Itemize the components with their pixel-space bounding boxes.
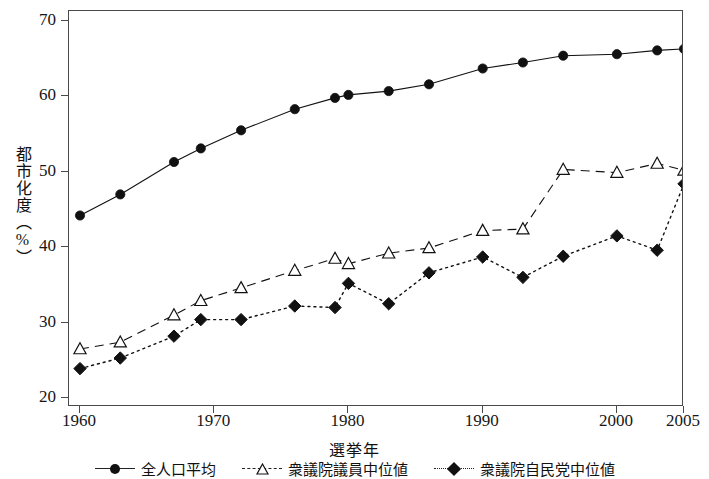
data-point bbox=[195, 313, 207, 325]
data-point bbox=[678, 164, 682, 175]
data-point bbox=[289, 300, 301, 312]
data-point bbox=[679, 44, 682, 53]
data-point bbox=[478, 64, 487, 73]
x-tick-label: 1970 bbox=[196, 412, 230, 429]
data-point bbox=[559, 51, 568, 60]
data-point bbox=[75, 211, 84, 220]
legend-symbol bbox=[242, 463, 282, 475]
data-point bbox=[329, 301, 341, 313]
data-point bbox=[195, 294, 207, 305]
data-point bbox=[329, 252, 341, 263]
y-tick-label: 40 bbox=[22, 237, 56, 254]
series-line-2 bbox=[80, 184, 682, 369]
y-tick-mark bbox=[61, 20, 68, 21]
data-point bbox=[612, 50, 621, 59]
x-tick-label: 1980 bbox=[330, 412, 364, 429]
data-point bbox=[678, 178, 682, 190]
plot-area bbox=[68, 10, 683, 406]
y-tick-label: 50 bbox=[22, 162, 56, 179]
data-point bbox=[476, 251, 488, 263]
x-tick-label: 1990 bbox=[465, 412, 499, 429]
data-point bbox=[517, 271, 529, 283]
data-point bbox=[557, 163, 569, 174]
x-tick-mark bbox=[347, 406, 348, 413]
data-point bbox=[289, 264, 301, 275]
x-tick-label: 1960 bbox=[62, 412, 96, 429]
series-line-0 bbox=[80, 49, 682, 216]
y-tick-label: 60 bbox=[22, 86, 56, 103]
y-tick-mark bbox=[61, 322, 68, 323]
x-tick-mark bbox=[213, 406, 214, 413]
chart-legend: 全人口平均衆議院議員中位値衆議院自民党中位値 bbox=[0, 458, 709, 479]
data-point bbox=[116, 190, 125, 199]
x-tick-label: 2000 bbox=[599, 412, 633, 429]
data-point bbox=[235, 282, 247, 293]
data-point bbox=[196, 144, 205, 153]
data-point bbox=[477, 224, 489, 235]
data-point bbox=[423, 242, 435, 253]
series-canvas bbox=[69, 11, 682, 405]
legend-item: 衆議院議員中位値 bbox=[242, 458, 408, 479]
data-point bbox=[168, 330, 180, 342]
data-point bbox=[237, 126, 246, 135]
data-point bbox=[168, 309, 180, 320]
x-tick-label: 2005 bbox=[666, 412, 700, 429]
data-point bbox=[611, 166, 623, 177]
legend-label: 衆議院議員中位値 bbox=[288, 458, 408, 479]
y-tick-mark bbox=[61, 397, 68, 398]
data-point bbox=[383, 298, 395, 310]
data-point bbox=[653, 46, 662, 55]
x-tick-mark bbox=[616, 406, 617, 413]
data-point bbox=[342, 277, 354, 289]
legend-marker-diamond-icon bbox=[446, 461, 460, 475]
series-line-1 bbox=[80, 164, 682, 350]
y-tick-mark bbox=[61, 171, 68, 172]
data-point bbox=[169, 157, 178, 166]
legend-marker-triangle-icon bbox=[256, 463, 269, 475]
legend-label: 衆議院自民党中位値 bbox=[480, 458, 615, 479]
legend-symbol bbox=[434, 463, 474, 475]
data-point bbox=[74, 362, 86, 374]
data-point bbox=[517, 223, 529, 234]
data-point bbox=[235, 313, 247, 325]
data-point bbox=[330, 93, 339, 102]
data-point bbox=[651, 157, 663, 168]
data-point bbox=[423, 267, 435, 279]
data-point bbox=[114, 336, 126, 347]
y-tick-mark bbox=[61, 246, 68, 247]
legend-label: 全人口平均 bbox=[141, 458, 216, 479]
data-point bbox=[114, 352, 126, 364]
legend-marker-circle-icon bbox=[110, 464, 120, 474]
data-point bbox=[384, 87, 393, 96]
x-tick-mark bbox=[79, 406, 80, 413]
x-tick-mark bbox=[482, 406, 483, 413]
legend-symbol bbox=[95, 463, 135, 475]
y-tick-label: 20 bbox=[22, 388, 56, 405]
data-point bbox=[290, 105, 299, 114]
data-point bbox=[611, 230, 623, 242]
x-tick-mark bbox=[683, 406, 684, 413]
data-point bbox=[518, 58, 527, 67]
y-tick-label: 70 bbox=[22, 11, 56, 28]
legend-item: 衆議院自民党中位値 bbox=[434, 458, 615, 479]
y-tick-label: 30 bbox=[22, 313, 56, 330]
data-point bbox=[344, 90, 353, 99]
legend-item: 全人口平均 bbox=[95, 458, 216, 479]
data-point bbox=[424, 80, 433, 89]
y-tick-mark bbox=[61, 95, 68, 96]
data-point bbox=[557, 250, 569, 262]
data-point bbox=[651, 244, 663, 256]
